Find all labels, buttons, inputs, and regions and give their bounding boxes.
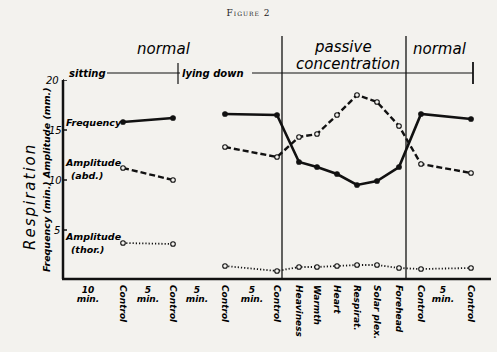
data-point (275, 155, 280, 160)
x-label: min. (241, 294, 263, 304)
x-label: min. (137, 294, 159, 304)
data-point (223, 145, 228, 150)
data-point (419, 112, 424, 117)
data-point (375, 100, 380, 105)
x-label: Respirat. (352, 285, 362, 331)
data-point (315, 265, 320, 270)
phase-label-normal-2: normal (413, 40, 467, 58)
series-line-2 (123, 243, 173, 244)
data-point (469, 117, 474, 122)
x-label: min. (77, 294, 99, 304)
data-point (297, 135, 302, 140)
sitting-label: sitting (69, 68, 106, 79)
data-point (355, 183, 360, 188)
data-point (121, 166, 126, 171)
data-point (375, 263, 380, 268)
respiration-chart: 20 15 10 5 Respiration Frequency (min.) … (0, 0, 497, 352)
legend-thor-1: Amplitude (65, 231, 122, 242)
x-label: Control (466, 285, 476, 323)
series-group (121, 93, 474, 274)
lying-down-label: lying down (182, 68, 244, 79)
x-label: Heart (332, 285, 342, 314)
legend-thor-2: (thor.) (71, 244, 104, 255)
x-label: Heaviness (294, 285, 304, 338)
x-label: min. (432, 294, 454, 304)
phase-label-passive: passive (314, 38, 372, 56)
series-line-1 (123, 168, 173, 180)
series-line-0 (225, 114, 471, 185)
series-line-0 (123, 118, 173, 122)
legend-frequency: Frequency (66, 117, 122, 128)
data-point (469, 171, 474, 176)
x-label: Control (168, 285, 178, 323)
data-point (397, 124, 402, 129)
data-point (335, 264, 340, 269)
data-point (419, 267, 424, 272)
data-point (315, 165, 320, 170)
data-point (375, 179, 380, 184)
data-point (171, 242, 176, 247)
series-line-2 (225, 265, 471, 271)
data-point (297, 160, 302, 165)
y-axis-label: Respiration (21, 143, 39, 250)
data-point (335, 172, 340, 177)
data-point (121, 120, 126, 125)
x-label: Solar plex. (372, 285, 382, 339)
series-line-1 (225, 95, 471, 173)
phase-label-concentration: concentration (296, 55, 400, 73)
data-point (223, 112, 228, 117)
data-point (355, 263, 360, 268)
x-label: min. (186, 294, 208, 304)
data-point (275, 269, 280, 274)
x-axis-labels: 10min.Control5min.Control5min.Control5mi… (77, 285, 476, 339)
data-point (275, 113, 280, 118)
phase-label-normal-1: normal (137, 40, 191, 58)
data-point (121, 241, 126, 246)
y-tick-5: 5 (54, 225, 60, 236)
y-tick-20: 20 (46, 75, 59, 86)
data-point (335, 113, 340, 118)
data-point (355, 93, 360, 98)
legend-abd-2: (abd.) (71, 170, 103, 181)
x-label: Control (220, 285, 230, 323)
x-label: Control (416, 285, 426, 323)
data-point (397, 165, 402, 170)
data-point (315, 132, 320, 137)
data-point (419, 162, 424, 167)
x-label: Forehead (394, 285, 404, 333)
x-label: Warmth (312, 285, 322, 325)
y-axis-sublabel: Frequency (min.) Amplitude (mm.) (41, 87, 52, 272)
data-point (223, 264, 228, 269)
legend-abd-1: Amplitude (65, 157, 122, 168)
data-point (171, 116, 176, 121)
data-point (171, 178, 176, 183)
x-label: Control (272, 285, 282, 323)
data-point (297, 265, 302, 270)
data-point (469, 266, 474, 271)
data-point (397, 266, 402, 271)
x-label: Control (118, 285, 128, 323)
